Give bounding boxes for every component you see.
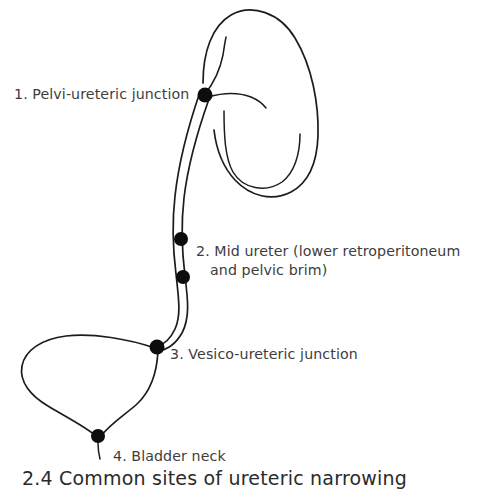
bladder-neck-outlet bbox=[98, 443, 100, 459]
marker-pelvi-ureteric-junction bbox=[198, 88, 213, 103]
ureter-inner-wall bbox=[158, 99, 209, 351]
label-mid-ureter-line1: 2. Mid ureter (lower retroperitoneum bbox=[196, 243, 460, 259]
label-pelvi-ureteric-junction: 1. Pelvi-ureteric junction bbox=[14, 85, 189, 104]
ureter-outer-wall bbox=[156, 92, 200, 347]
label-mid-ureter-line2: and pelvic brim) bbox=[196, 261, 496, 280]
marker-bladder-neck bbox=[91, 429, 105, 443]
label-vesico-ureteric-junction: 3. Vesico-ureteric junction bbox=[170, 345, 358, 364]
marker-vesico-ureteric-junction bbox=[150, 340, 165, 355]
bladder-right-wall bbox=[101, 351, 158, 436]
marker-mid-ureter-upper bbox=[174, 232, 188, 246]
label-bladder-neck: 4. Bladder neck bbox=[113, 447, 226, 466]
kidney-hilum-lower-lip bbox=[208, 94, 266, 108]
label-mid-ureter: 2. Mid ureter (lower retroperitoneum and… bbox=[196, 242, 496, 280]
figure-caption: 2.4 Common sites of ureteric narrowing bbox=[22, 466, 407, 490]
kidney-lower-calyx-line bbox=[224, 111, 300, 188]
bladder-outline bbox=[22, 335, 155, 436]
marker-mid-ureter-lower bbox=[176, 270, 190, 284]
